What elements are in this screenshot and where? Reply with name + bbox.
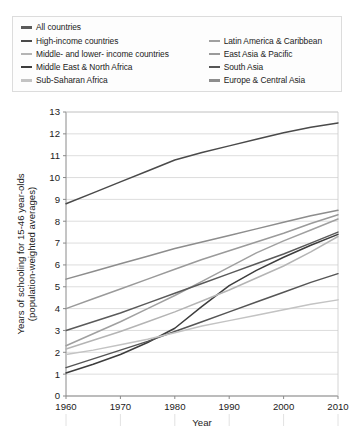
series-line	[66, 210, 338, 279]
y-tick-label: 9	[55, 194, 60, 205]
legend-item-label: Middle- and lower- income countries	[36, 50, 169, 58]
y-tick-label: 0	[55, 390, 60, 401]
x-axis-title: Year	[192, 417, 212, 428]
series-line	[66, 215, 338, 309]
x-tick-label: 1960	[55, 401, 76, 412]
legend-item-label: High-income countries	[36, 37, 118, 45]
legend-item-label: Sub-Saharan Africa	[36, 76, 108, 84]
series-line	[66, 237, 338, 350]
y-tick-label: 2	[55, 347, 60, 358]
legend-swatch-icon	[209, 53, 220, 55]
x-tick-label: 1980	[164, 401, 185, 412]
x-tick-label: 2000	[273, 401, 294, 412]
legend-item-sub-saharan-africa[interactable]: Sub-Saharan Africa	[21, 74, 209, 87]
y-tick-label: 6	[55, 259, 60, 270]
legend-item-middle-east-north-africa[interactable]: Middle East & North Africa	[21, 61, 209, 74]
y-tick-label: 4	[55, 303, 61, 314]
legend-item-label: Latin America & Caribbean	[224, 37, 322, 45]
chart-figure: All countries High-income countries Midd…	[0, 0, 356, 436]
axis-lines	[66, 112, 338, 396]
y-axis-title-line1: Years of schooling for 15-46 year-olds	[15, 173, 26, 334]
x-tick-label: 2010	[327, 401, 348, 412]
y-tick-label: 8	[55, 216, 60, 227]
y-tick-label: 13	[49, 106, 60, 117]
legend-item-south-asia[interactable]: South Asia	[209, 61, 335, 74]
y-axis-tick-labels: 012345678910111213	[49, 106, 66, 401]
legend-swatch-icon	[21, 79, 32, 81]
chart-legend: All countries High-income countries Midd…	[12, 16, 342, 92]
legend-swatch-icon	[21, 66, 32, 68]
legend-item-latin-america-caribbean[interactable]: Latin America & Caribbean	[209, 34, 335, 47]
legend-item-label: Middle East & North Africa	[36, 63, 132, 71]
legend-item-label: Europe & Central Asia	[224, 76, 305, 84]
y-tick-label: 10	[49, 172, 60, 183]
legend-column-left: All countries High-income countries Midd…	[21, 21, 209, 87]
legend-swatch-icon	[209, 40, 220, 42]
legend-item-middle-and-lower-income-countries[interactable]: Middle- and lower- income countries	[21, 47, 209, 60]
y-axis-title-line2: (population-weighted averages)	[26, 187, 37, 321]
series-line	[66, 274, 338, 368]
y-tick-label: 7	[55, 237, 60, 248]
y-tick-label: 1	[55, 369, 60, 380]
plot-area-wrapper: 012345678910111213 196019701980199020002…	[0, 96, 356, 436]
legend-column-right: Latin America & Caribbean East Asia & Pa…	[209, 21, 335, 87]
legend-item-high-income-countries[interactable]: High-income countries	[21, 34, 209, 47]
grid-lines	[66, 112, 338, 396]
legend-swatch-icon	[21, 26, 32, 28]
legend-swatch-icon	[209, 66, 220, 68]
y-tick-label: 5	[55, 281, 60, 292]
axis-titles: YearYears of schooling for 15-46 year-ol…	[15, 173, 212, 428]
legend-swatch-icon	[21, 53, 32, 55]
y-tick-label: 12	[49, 128, 60, 139]
legend-spacer	[209, 21, 335, 34]
legend-item-all-countries[interactable]: All countries	[21, 21, 209, 34]
legend-swatch-icon	[21, 40, 32, 42]
legend-item-label: All countries	[36, 23, 81, 31]
series-line	[66, 123, 338, 204]
x-tick-label: 1990	[219, 401, 240, 412]
x-tick-label: 1970	[110, 401, 131, 412]
legend-item-label: East Asia & Pacific	[224, 50, 293, 58]
data-series-lines	[66, 123, 338, 373]
legend-item-europe-central-asia[interactable]: Europe & Central Asia	[209, 74, 335, 87]
legend-swatch-icon	[209, 79, 220, 81]
legend-item-east-asia-pacific[interactable]: East Asia & Pacific	[209, 47, 335, 60]
legend-item-label: South Asia	[224, 63, 264, 71]
y-tick-label: 11	[50, 150, 60, 161]
line-chart-svg: 012345678910111213 196019701980199020002…	[0, 96, 356, 436]
y-tick-label: 3	[55, 325, 60, 336]
